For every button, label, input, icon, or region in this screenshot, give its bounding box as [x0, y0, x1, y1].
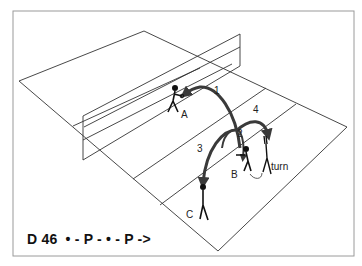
player-b: [236, 147, 251, 171]
player-c: [200, 185, 208, 220]
player-turn: [263, 136, 271, 174]
turn-indicator-icon: [250, 173, 262, 178]
pass-2-label: 2: [237, 128, 243, 139]
drill-diagram: 1 2 3 4 A B turn C: [0, 0, 362, 266]
pass-4-label: 4: [253, 104, 259, 115]
turn-label: turn: [271, 161, 288, 172]
diagram-caption: D 46 • - P - • - P ->: [27, 231, 151, 247]
pass-1-arrow: [185, 87, 240, 148]
pass-1-label: 1: [214, 85, 220, 96]
frame-border: [13, 11, 354, 256]
player-c-label: C: [186, 209, 193, 220]
player-b-label: B: [231, 169, 238, 180]
pass-3-label: 3: [197, 143, 203, 154]
player-a-label: A: [181, 109, 188, 120]
net-base: [83, 66, 240, 160]
center-line: [83, 64, 232, 140]
